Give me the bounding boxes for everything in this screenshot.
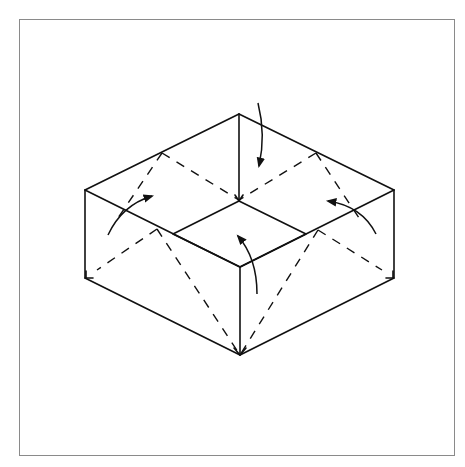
center-fold-arrow-icon (238, 236, 257, 294)
front-right-diag-b (318, 230, 382, 270)
back-right-diag-a (239, 153, 316, 200)
diagram-canvas (0, 0, 465, 467)
left-bottom-edge (85, 278, 240, 355)
left-corner-arrowhead-icon (86, 271, 93, 278)
right-fold-arrow-icon (328, 201, 376, 234)
top-fold-arrow-icon (258, 103, 262, 166)
right-bottom-edge (240, 278, 394, 355)
front-left-diag-a (157, 229, 240, 355)
back-left-diag-a (162, 153, 239, 200)
front-left-diag-b (97, 229, 157, 270)
origami-box-diagram (0, 0, 465, 467)
right-corner-arrowhead-icon (386, 271, 393, 278)
box-inner-square (173, 201, 306, 267)
left-fold-arrow-icon (108, 196, 152, 235)
top-left-rim (85, 114, 239, 190)
box-outer-edges (85, 114, 394, 355)
